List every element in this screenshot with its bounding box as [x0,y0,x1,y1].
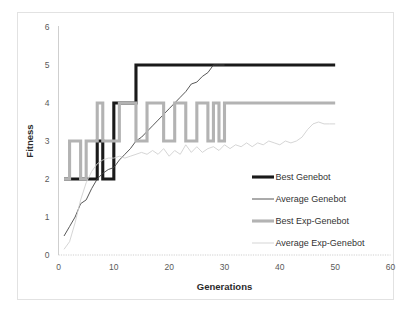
y-tick-label: 5 [45,60,50,70]
y-tick-label: 6 [45,22,50,32]
y-tick-label: 1 [45,212,50,222]
legend-group: Best GenebotAverage GenebotBest Exp-Gene… [252,172,365,248]
x-tick-label: 40 [275,262,285,272]
x-tick-label: 60 [386,262,396,272]
legend-label: Average Genebot [276,194,347,204]
legend-label: Best Genebot [276,172,332,182]
y-tick-label: 4 [45,98,50,108]
y-tick-label: 2 [45,174,50,184]
y-tick-label: 0 [45,250,50,260]
legend-label: Best Exp-Genebot [276,216,350,226]
x-tick-label: 30 [220,262,230,272]
x-axis-title: Generations [197,281,252,292]
y-tick-label: 3 [45,136,50,146]
chart-figure: 0123456 0102030405060 Best GenebotAverag… [0,0,409,311]
y-tick-labels-group: 0123456 [45,22,50,260]
x-tick-label: 10 [109,262,119,272]
series-line [64,103,335,179]
x-tick-label: 20 [164,262,174,272]
legend-label: Average Exp-Genebot [276,238,365,248]
x-tick-labels-group: 0102030405060 [56,262,395,272]
y-axis-title: Fitness [24,124,35,157]
x-tick-label: 0 [56,262,61,272]
x-tick-label: 50 [330,262,340,272]
series-line [64,65,335,179]
fitness-vs-generations-chart: 0123456 0102030405060 Best GenebotAverag… [0,0,409,311]
